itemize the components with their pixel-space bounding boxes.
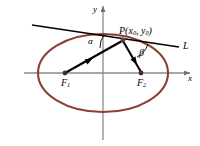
angle-beta-label: β — [139, 48, 144, 58]
tangent-line-label: L — [183, 41, 189, 51]
y-axis-label: y — [93, 5, 97, 14]
focus-1-marker — [63, 71, 68, 76]
focus-2-label: F2 — [137, 78, 146, 88]
focus-2-marker — [139, 71, 144, 76]
ellipse-reflection-diagram: P(x0, y0) L α β F1 F2 x y — [0, 0, 200, 146]
angle-alpha-label: α — [88, 37, 93, 46]
point-p-label: P(x0, y0) — [119, 26, 152, 36]
tangent-line — [32, 25, 179, 47]
focal-radius-f1-to-p — [65, 41, 122, 73]
diagram-canvas — [0, 0, 200, 146]
axes — [24, 6, 190, 140]
x-axis-label: x — [188, 74, 192, 83]
point-p-marker — [121, 38, 126, 43]
focus-1-label: F1 — [61, 78, 70, 88]
